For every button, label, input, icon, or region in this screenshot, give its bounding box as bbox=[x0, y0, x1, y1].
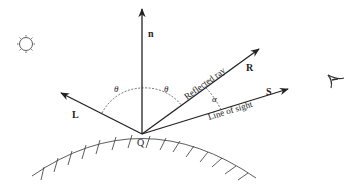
label-light: L bbox=[72, 109, 79, 120]
label-reflected-ray: Reflected ray bbox=[182, 65, 227, 102]
label-theta-right: θ bbox=[164, 84, 169, 94]
eye-icon bbox=[328, 75, 344, 88]
reflection-diagram: n L R S Q θ θ α Reflected ray Line of si… bbox=[0, 0, 360, 193]
label-sight: S bbox=[266, 86, 272, 97]
label-theta-left: θ bbox=[114, 84, 119, 94]
label-point: Q bbox=[137, 137, 145, 148]
vectors bbox=[61, 9, 288, 134]
sun-icon bbox=[17, 35, 35, 53]
label-alpha: α bbox=[212, 94, 217, 104]
label-normal: n bbox=[148, 28, 154, 39]
label-reflected: R bbox=[246, 62, 254, 73]
